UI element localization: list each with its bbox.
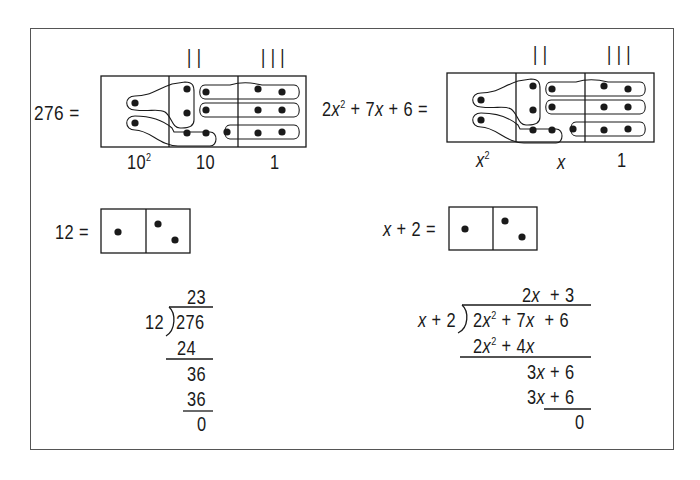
label-x: x [557,152,566,172]
step-2x2-plus-4x: 2x2 + 4x [473,336,535,356]
grouping-loops-left [127,82,300,146]
dots-left [131,85,285,136]
lhs-polynomial: 2x2 + 7x + 6 = [322,99,428,119]
lhs-x-plus-2: x + 2 = [383,219,436,239]
dots-right [477,82,631,133]
step-36a: 36 [187,364,206,384]
dividend-276: 276 [176,312,205,332]
grouping-loops-right [473,79,646,143]
label-ones-right: 1 [617,150,627,170]
label-tens: 10 [196,152,215,172]
step-3x-plus-6a: 3x + 6 [527,362,575,382]
diagram-graphics [0,0,700,480]
lhs-12: 12 = [55,222,89,242]
step-36b: 36 [187,389,206,409]
step-3x-plus-6b: 3x + 6 [527,387,575,407]
label-x-squared: x2 [476,150,490,170]
quotient-2x-plus-3: 2x + 3 [522,285,575,305]
divisor-12: 12 [145,312,164,332]
label-ones-left: 1 [270,152,280,172]
divisor-x-plus-2: x + 2 [418,310,456,330]
tally-ones-right: | | | [607,44,631,64]
tally-tens-right: | | [533,44,547,64]
label-hundreds: 102 [127,152,151,172]
lhs-276: 276 = [34,102,80,123]
tally-ones-left: | | | [261,47,285,67]
remainder-0-numeric: 0 [197,414,207,434]
dividend-polynomial: 2x2 + 7x + 6 [473,310,569,330]
tally-tens-left: | | [187,47,201,67]
quotient-23: 23 [187,287,206,307]
step-24: 24 [177,338,196,358]
remainder-0-polynomial: 0 [575,412,585,432]
